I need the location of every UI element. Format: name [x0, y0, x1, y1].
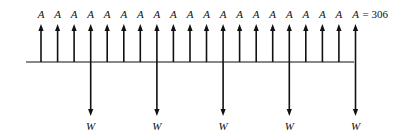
cash-flow-diagram: AAAAAAAAAAAAAAAAAAAAWWWWW = 306: [0, 0, 411, 137]
up-arrow-head-icon: [121, 24, 126, 31]
down-arrow-head-icon: [88, 109, 93, 116]
up-arrow-head-icon: [353, 24, 358, 31]
annuity-label-a: A: [137, 9, 144, 20]
annuity-label-a: A: [253, 9, 260, 20]
withdrawal-label-w: W: [351, 121, 360, 132]
annuity-label-a: A: [187, 9, 194, 20]
annuity-label-a: A: [319, 9, 326, 20]
down-arrow-head-icon: [154, 109, 159, 116]
up-arrow-head-icon: [154, 24, 159, 31]
up-arrow-head-icon: [88, 24, 93, 31]
annuity-label-a: A: [220, 9, 227, 20]
annuity-label-a: A: [71, 9, 78, 20]
annuity-label-a: A: [352, 9, 359, 20]
up-arrow-head-icon: [336, 24, 341, 31]
up-arrow-head-icon: [237, 24, 242, 31]
equation-label: = 306: [363, 9, 388, 20]
withdrawal-label-w: W: [285, 121, 294, 132]
withdrawal-label-w: W: [86, 121, 95, 132]
annuity-label-a: A: [87, 9, 94, 20]
up-arrow-head-icon: [320, 24, 325, 31]
withdrawal-label-w: W: [219, 121, 228, 132]
annuity-label-a: A: [269, 9, 276, 20]
annuity-label-a: A: [38, 9, 45, 20]
up-arrow-head-icon: [287, 24, 292, 31]
down-arrow-head-icon: [353, 109, 358, 116]
up-arrow-head-icon: [221, 24, 226, 31]
annuity-label-a: A: [302, 9, 309, 20]
down-arrow-head-icon: [287, 109, 292, 116]
up-arrow-head-icon: [187, 24, 192, 31]
annuity-label-a: A: [104, 9, 111, 20]
annuity-label-a: A: [336, 9, 343, 20]
up-arrow-head-icon: [171, 24, 176, 31]
up-arrow-head-icon: [204, 24, 209, 31]
up-arrow-head-icon: [38, 24, 43, 31]
down-arrow-head-icon: [221, 109, 226, 116]
up-arrow-head-icon: [303, 24, 308, 31]
annuity-label-a: A: [236, 9, 243, 20]
annuity-label-a: A: [203, 9, 210, 20]
up-arrow-head-icon: [72, 24, 77, 31]
withdrawal-label-w: W: [152, 121, 161, 132]
up-arrow-head-icon: [55, 24, 60, 31]
up-arrow-head-icon: [270, 24, 275, 31]
up-arrow-head-icon: [138, 24, 143, 31]
annuity-label-a: A: [54, 9, 61, 20]
up-arrow-head-icon: [254, 24, 259, 31]
annuity-label-a: A: [170, 9, 177, 20]
up-arrow-head-icon: [105, 24, 110, 31]
annuity-label-a: A: [154, 9, 161, 20]
cash-flow-diagram-graphic: [0, 0, 411, 137]
annuity-label-a: A: [286, 9, 293, 20]
annuity-label-a: A: [120, 9, 127, 20]
